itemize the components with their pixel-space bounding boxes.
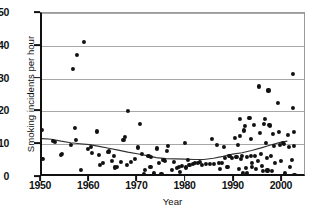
x-tick-mark-1980: [184, 176, 186, 181]
y-tick-label-50: 50: [0, 6, 9, 18]
x-tick-mark-1950: [39, 176, 41, 181]
x-axis-label: Year: [40, 196, 305, 207]
x-tick-mark-2000: [280, 176, 282, 181]
y-axis-label: Smoking incidents per hour: [25, 19, 36, 169]
y-tick-label-0: 0: [3, 170, 9, 182]
y-tick-label-40: 40: [0, 39, 9, 51]
plot-inner: [42, 13, 304, 174]
x-tick-mark-1960: [87, 176, 89, 181]
data-point: [159, 172, 163, 174]
x-tick-mark-1990: [232, 176, 234, 181]
data-point: [292, 173, 296, 174]
plot-area: [40, 12, 305, 176]
y-tick-label-10: 10: [0, 137, 9, 149]
y-tick-label-30: 30: [0, 72, 9, 84]
x-tick-mark-1970: [135, 176, 137, 181]
y-tick-label-20: 20: [0, 104, 9, 116]
trendline: [42, 13, 304, 174]
smoking-incidents-scatter-chart: Smoking incidents per hour 01020304050 1…: [0, 0, 316, 217]
